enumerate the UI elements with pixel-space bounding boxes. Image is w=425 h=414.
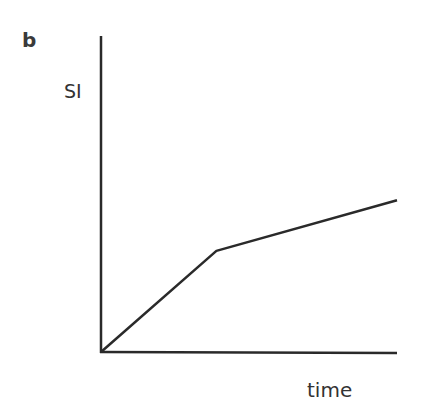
x-axis: [100, 352, 397, 353]
si-curve: [101, 200, 397, 352]
chart-area: [0, 0, 425, 414]
